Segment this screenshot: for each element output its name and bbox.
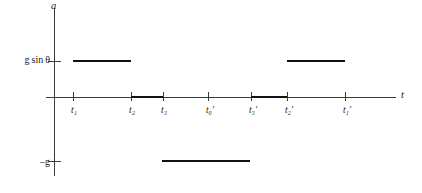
x-tick-t1-prime [345,92,346,101]
x-tick-t2-prime [287,92,288,101]
y-axis-label: a [51,0,56,11]
x-tick-label-t1-prime: t₁′ [343,105,351,115]
y-axis-line [54,8,55,176]
x-axis-label: t [401,89,404,100]
segment-zero-second [251,96,287,98]
x-tick-t0-prime [208,92,209,101]
acceleration-time-diagram: a t g sin θ –g t₁ t₂ t₃ t₀′ t₃′ t₂′ t₁′ [0,0,422,193]
segment-g-sin-theta-first [73,60,131,63]
x-tick-label-t3-prime: t₃′ [249,105,257,115]
y-tick-negative-g [48,161,61,162]
x-tick-t3 [163,92,164,101]
y-label-g-sin-theta: g sin θ [6,54,50,65]
x-tick-label-t3: t₃ [161,105,167,115]
x-tick-label-t0-prime: t₀′ [206,105,214,115]
x-tick-label-t1: t₁ [71,105,77,115]
segment-negative-g [162,160,250,163]
y-tick-g-sin-theta [48,61,61,62]
x-tick-label-t2-prime: t₂′ [285,105,293,115]
y-label-negative-g: –g [20,156,50,167]
x-tick-label-t2: t₂ [129,105,135,115]
x-axis-line [46,97,396,98]
x-tick-t1 [73,92,74,101]
segment-zero-first [131,96,163,98]
segment-g-sin-theta-second [287,60,345,63]
